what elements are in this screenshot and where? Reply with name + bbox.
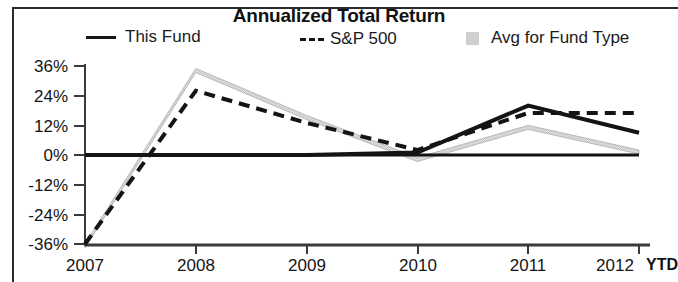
y-axis-label-24: 24% (6, 87, 68, 107)
x-axis-label-ytd: YTD (646, 256, 678, 274)
x-axis-label-2007: 2007 (48, 256, 122, 276)
x-axis-label-2008: 2008 (159, 256, 233, 276)
y-axis-label-0: 0% (6, 146, 68, 166)
y-axis-ticks (74, 66, 85, 244)
x-axis-label-2011: 2011 (491, 256, 565, 276)
x-axis-label-2012: 2012 (578, 256, 652, 276)
x-axis-label-2010: 2010 (381, 256, 455, 276)
y-axis-label-36: 36% (6, 57, 68, 77)
x-axis-label-2009: 2009 (270, 256, 344, 276)
plot-area (0, 0, 678, 282)
series-area-avg-fund-type (85, 68, 639, 248)
annualized-total-return-chart: Annualized Total Return This Fund S&P 50… (0, 0, 678, 282)
y-axis-label-12: 12% (6, 117, 68, 137)
y-axis-label-n36: -36% (6, 235, 68, 255)
y-axis-label-n24: -24% (6, 206, 68, 226)
y-axis-label-n12: -12% (6, 176, 68, 196)
